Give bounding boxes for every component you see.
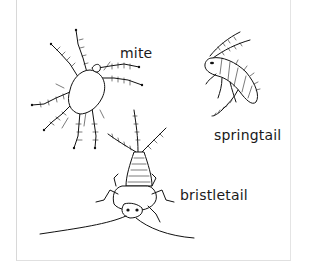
springtail-drawing (205, 32, 260, 116)
springtail-label: springtail (214, 128, 281, 142)
bristletail-drawing (40, 110, 194, 238)
bristletail-label: bristletail (180, 188, 248, 202)
mite-label: mite (120, 46, 152, 60)
